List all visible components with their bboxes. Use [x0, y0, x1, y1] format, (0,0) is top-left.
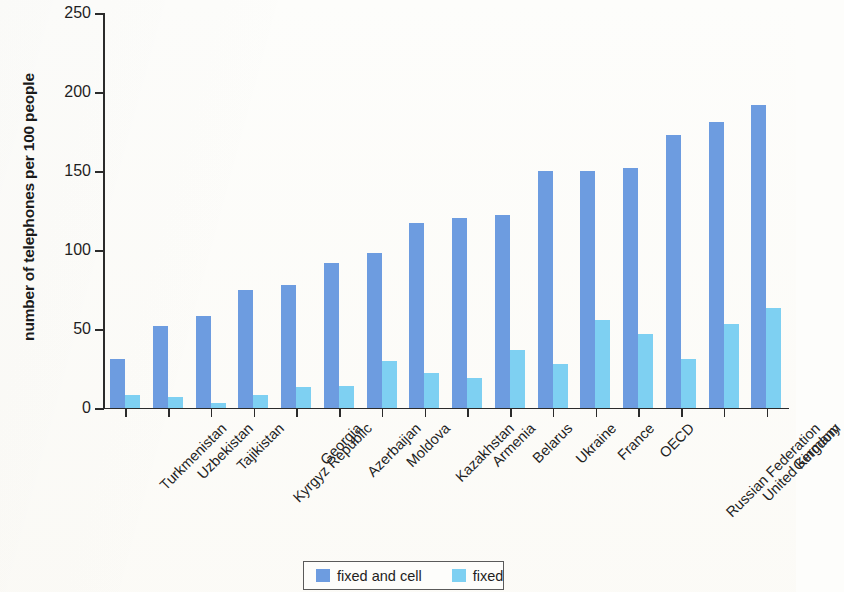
- x-tick-mark: [125, 408, 127, 417]
- legend-item-fixed-and-cell: fixed and cell: [316, 568, 422, 584]
- x-tick-mark: [510, 408, 512, 417]
- bar-fixed-and-cell: [367, 253, 382, 408]
- y-tick-label: 250: [64, 4, 91, 22]
- bar-group: [238, 13, 275, 408]
- legend-label-fixed: fixed: [473, 568, 504, 584]
- y-tick-mark: [95, 92, 104, 94]
- x-axis-label: Germany: [789, 420, 842, 473]
- bar-fixed: [253, 395, 268, 408]
- bar-fixed-and-cell: [538, 171, 553, 408]
- bar-fixed: [638, 334, 653, 408]
- x-axis-label: United Kingdom: [759, 420, 843, 504]
- bar-fixed: [724, 324, 739, 408]
- x-tick-mark: [296, 408, 298, 417]
- x-axis-label: Georgia: [317, 420, 365, 468]
- x-axis-label: Azerbaijan: [364, 420, 424, 480]
- x-tick-mark: [211, 408, 213, 417]
- y-axis-title: number of telephones per 100 people: [14, 2, 44, 412]
- bar-group: [196, 13, 233, 408]
- bar-fixed-and-cell: [666, 135, 681, 408]
- x-axis-label: Moldova: [403, 420, 453, 470]
- bar-fixed-and-cell: [452, 218, 467, 408]
- bar-fixed: [382, 361, 397, 408]
- bar-group: [538, 13, 575, 408]
- bar-group: [580, 13, 617, 408]
- x-tick-mark: [254, 408, 256, 417]
- y-tick-mark: [95, 408, 104, 410]
- bar-fixed-and-cell: [580, 171, 595, 408]
- y-tick-label: 200: [64, 83, 91, 101]
- y-tick-label: 50: [73, 320, 91, 338]
- y-tick-label: 150: [64, 162, 91, 180]
- x-axis-label: Ukraine: [573, 420, 620, 467]
- x-axis-label: Armenia: [488, 420, 537, 469]
- bar-fixed: [424, 373, 439, 408]
- x-tick-mark: [553, 408, 555, 417]
- legend-item-fixed: fixed: [452, 568, 504, 584]
- x-tick-mark: [425, 408, 427, 417]
- bar-fixed-and-cell: [324, 263, 339, 408]
- bar-fixed-and-cell: [623, 168, 638, 408]
- bar-fixed-and-cell: [196, 316, 211, 408]
- legend-swatch-fixed-and-cell: [316, 569, 330, 582]
- bar-group: [281, 13, 318, 408]
- bar-group: [110, 13, 147, 408]
- x-axis-label: Belarus: [530, 420, 576, 466]
- x-axis-label: OECD: [656, 420, 697, 461]
- bar-group: [666, 13, 703, 408]
- x-axis-label: Kazakhstan: [452, 420, 517, 485]
- x-axis-label: Uzbekistan: [194, 420, 256, 482]
- x-axis-label: Tajikistan: [233, 420, 286, 473]
- x-tick-mark: [681, 408, 683, 417]
- bar-fixed: [766, 308, 781, 408]
- y-tick-label: 100: [64, 241, 91, 259]
- x-tick-mark: [339, 408, 341, 417]
- x-axis-label: France: [614, 420, 657, 463]
- y-tick-label: 0: [82, 399, 91, 417]
- x-tick-mark: [596, 408, 598, 417]
- bar-fixed: [510, 350, 525, 408]
- x-tick-mark: [168, 408, 170, 417]
- bar-fixed-and-cell: [110, 359, 125, 408]
- bar-fixed-and-cell: [153, 326, 168, 408]
- bar-group: [452, 13, 489, 408]
- bar-fixed: [467, 378, 482, 408]
- bar-fixed-and-cell: [409, 223, 424, 408]
- bar-fixed: [595, 320, 610, 408]
- x-tick-mark: [767, 408, 769, 417]
- bar-fixed: [211, 403, 226, 408]
- bar-group: [623, 13, 660, 408]
- legend-label-fixed-and-cell: fixed and cell: [337, 568, 422, 584]
- bar-fixed: [339, 386, 354, 408]
- y-tick-mark: [95, 13, 104, 15]
- bar-fixed-and-cell: [281, 285, 296, 408]
- bar-fixed: [125, 395, 140, 408]
- x-axis-label: Turkmenistan: [156, 420, 229, 493]
- bar-group: [367, 13, 404, 408]
- bar-fixed-and-cell: [238, 290, 253, 409]
- bar-fixed-and-cell: [495, 215, 510, 408]
- x-tick-mark: [382, 408, 384, 417]
- plot-area: 050100150200250: [104, 13, 788, 408]
- legend-swatch-fixed: [452, 569, 466, 582]
- bar-fixed: [296, 387, 311, 408]
- bar-fixed-and-cell: [751, 105, 766, 408]
- bar-fixed: [553, 364, 568, 408]
- bar-fixed: [681, 359, 696, 408]
- x-tick-mark: [724, 408, 726, 417]
- bar-group: [324, 13, 361, 408]
- bar-group: [409, 13, 446, 408]
- y-tick-mark: [95, 250, 104, 252]
- y-tick-mark: [95, 329, 104, 331]
- y-tick-mark: [95, 171, 104, 173]
- bar-fixed: [168, 397, 183, 408]
- bar-fixed-and-cell: [709, 122, 724, 408]
- x-axis-label: Kyrgyz Republic: [289, 420, 374, 505]
- bar-group: [751, 13, 788, 408]
- bar-group: [495, 13, 532, 408]
- x-tick-mark: [467, 408, 469, 417]
- bar-group: [153, 13, 190, 408]
- chart-legend: fixed and cell fixed: [303, 561, 504, 590]
- x-axis-label: Russian Federation: [723, 420, 823, 520]
